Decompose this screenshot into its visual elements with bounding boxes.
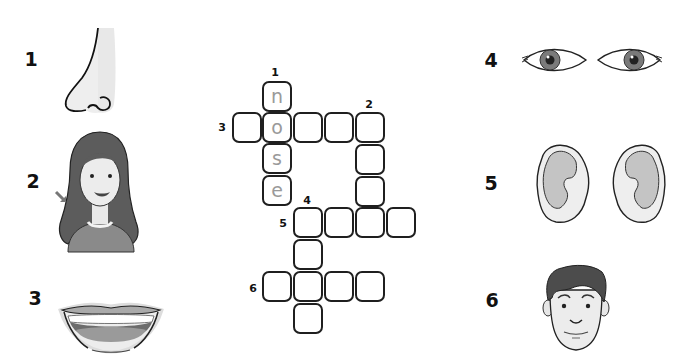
picture-number-2: 2 xyxy=(26,172,39,191)
cell-6-across-1[interactable] xyxy=(262,271,292,302)
cell-3-across-4[interactable] xyxy=(324,112,354,143)
cell-4-down-2[interactable] xyxy=(293,239,323,270)
picture-number-5: 5 xyxy=(484,174,497,193)
cell-1-down-3[interactable]: s xyxy=(262,143,292,174)
left-eye xyxy=(522,50,586,71)
cell-6-across-3[interactable] xyxy=(324,271,354,302)
cell-5-across-2[interactable] xyxy=(324,207,354,238)
eyes-icon xyxy=(520,44,665,78)
girl-hair-icon xyxy=(54,128,146,252)
picture-number-1: 1 xyxy=(24,50,37,69)
picture-number-3: 3 xyxy=(28,289,41,308)
right-eye xyxy=(598,50,662,71)
picture-number-4: 4 xyxy=(484,51,497,70)
cell-4-down-1[interactable] xyxy=(293,207,323,238)
ears-icon xyxy=(532,138,670,226)
picture-number-6: 6 xyxy=(485,291,498,310)
cell-1-down-1[interactable]: n xyxy=(262,81,292,112)
cell-5-across-3[interactable] xyxy=(355,207,385,238)
clue-number-4: 4 xyxy=(303,195,311,206)
left-ear xyxy=(537,145,588,222)
nose-icon xyxy=(60,26,120,116)
clue-number-5: 5 xyxy=(279,218,287,229)
cell-6-across-4[interactable] xyxy=(355,271,385,302)
cell-2-down-2[interactable] xyxy=(355,144,385,175)
cell-4-down-4[interactable] xyxy=(293,303,323,334)
cell-5-across-4[interactable] xyxy=(386,207,416,238)
clue-number-1: 1 xyxy=(271,67,279,78)
cell-3-across-1[interactable] xyxy=(232,112,262,143)
cell-2-down-3[interactable] xyxy=(355,176,385,207)
cell-3-across-3[interactable] xyxy=(293,112,323,143)
cell-1-down-2[interactable]: o xyxy=(262,112,292,143)
clue-number-2: 2 xyxy=(365,99,373,110)
cell-2-down-1[interactable] xyxy=(355,112,385,143)
head-icon xyxy=(542,264,610,354)
cell-4-down-3[interactable] xyxy=(293,271,323,302)
right-ear xyxy=(613,145,664,222)
clue-number-3: 3 xyxy=(218,122,226,133)
cell-1-down-4[interactable]: e xyxy=(262,175,292,206)
clue-number-6: 6 xyxy=(249,283,257,294)
mouth-icon xyxy=(56,300,166,356)
